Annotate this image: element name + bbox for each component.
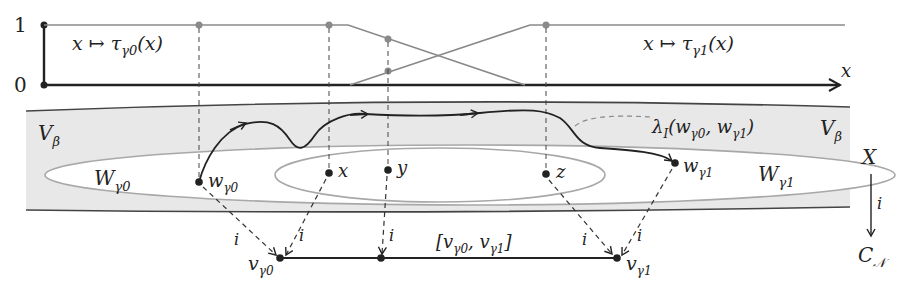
tick-label-1: 1 [14, 13, 27, 37]
sample-dot [385, 36, 392, 43]
svg-text:i: i [299, 226, 304, 245]
tau-gamma0-label: x ↦ τγ0(x) [72, 32, 163, 58]
sample-dot [196, 22, 203, 29]
diagram-canvas: 1 0 x x ↦ τγ0(x) x ↦ τγ1(x) Vβ Vβ Wγ0 Wγ… [0, 0, 914, 293]
svg-text:i: i [234, 230, 239, 249]
tau-gamma1-label: x ↦ τγ1(x) [643, 32, 734, 58]
sample-dot [543, 22, 550, 29]
v-gamma0-dot [276, 254, 284, 262]
y-point-label: y [396, 157, 408, 178]
c-n-label: C𝒩 [858, 243, 890, 270]
tick-dot-0 [41, 82, 48, 89]
sample-dot [326, 22, 333, 29]
point-w-gamma1 [671, 159, 679, 167]
x-axis-label: x [841, 60, 851, 81]
point-x [325, 169, 333, 177]
interval-label: [vγ0, vγ1] [436, 231, 512, 256]
map-i-label: i [877, 194, 882, 213]
z-point-label: z [555, 161, 566, 182]
v-gamma1-dot [613, 254, 621, 262]
point-y [384, 166, 392, 174]
path-arrow [350, 114, 368, 115]
point-z [542, 170, 550, 178]
svg-text:i: i [637, 226, 642, 245]
svg-text:i: i [582, 230, 587, 249]
v-mid-dot [377, 254, 385, 262]
side-map: X i C𝒩 [858, 145, 890, 270]
space-x-label: X [860, 145, 877, 169]
point-w-gamma0 [195, 178, 203, 186]
v-gamma0-label: vγ0 [248, 252, 274, 278]
tau-graph: 1 0 x x ↦ τγ0(x) x ↦ τγ1(x) [14, 13, 851, 97]
tick-label-0: 0 [14, 73, 27, 97]
tau-gamma1-curve [350, 25, 845, 85]
svg-text:i: i [389, 226, 394, 245]
v-gamma1-label: vγ1 [626, 252, 652, 278]
x-point-label: x [338, 160, 348, 181]
